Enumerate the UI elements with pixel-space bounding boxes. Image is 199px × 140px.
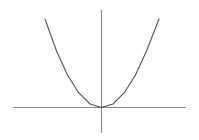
plot-background	[0, 0, 199, 140]
parabola-plot	[0, 0, 199, 140]
figure-root	[0, 0, 199, 140]
